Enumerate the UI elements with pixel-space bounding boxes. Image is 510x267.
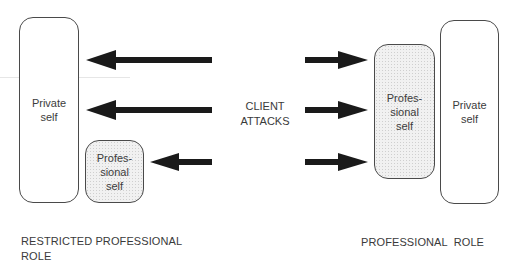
arrow-left-icon [86,50,212,70]
arrow-left-icon [86,100,212,120]
arrow-right-icon [305,51,368,69]
right-professional-self-label: Profes- sional self [387,91,422,133]
right-professional-self-box: Profes- sional self [374,44,435,179]
arrow-right-icon [305,153,368,171]
arrow-right-icon [305,101,368,119]
right-role-caption: PROFESSIONAL ROLE [361,235,484,250]
right-private-self-box: Private self [440,20,499,204]
arrow-left-icon [150,153,212,171]
right-private-self-label: Private self [452,98,486,126]
